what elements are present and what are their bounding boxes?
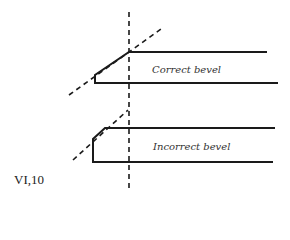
figure-number-label: VI,10 [14,172,44,188]
incorrect-bevel-dashed-extension [73,110,128,160]
correct-bevel-label: Correct bevel [152,64,221,75]
incorrect-bevel-label: Incorrect bevel [152,141,230,152]
